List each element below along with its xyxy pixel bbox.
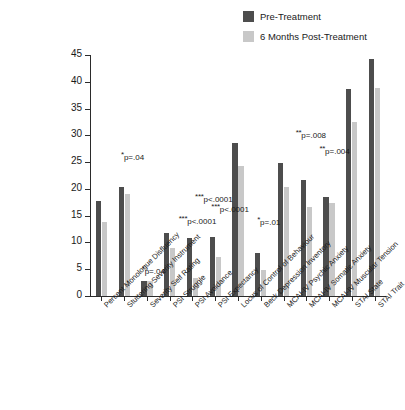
bar (119, 187, 124, 296)
bar (352, 122, 357, 296)
p-value-annotation-7: **p=.004 (319, 144, 349, 156)
legend-item-pre-treatment: Pre-Treatment (243, 10, 403, 23)
p-value-annotation-5: *p=.01 (257, 215, 280, 227)
y-tick-0: 0 (85, 296, 90, 297)
bar (102, 222, 107, 296)
legend-swatch-pre-treatment (243, 11, 254, 22)
y-axis-line (90, 55, 91, 296)
legend-item-post-treatment: 6 Months Post-Treatment (243, 30, 403, 43)
y-tick-5: 5 (85, 269, 90, 270)
legend-label-pre-treatment: Pre-Treatment (260, 11, 321, 22)
y-tick-45: 45 (85, 55, 90, 56)
y-tick-10: 10 (85, 242, 90, 243)
y-tick-25: 25 (85, 162, 90, 163)
legend-swatch-post-treatment (243, 31, 254, 42)
chart-legend: Pre-Treatment 6 Months Post-Treatment (243, 10, 403, 50)
y-tick-40: 40 (85, 82, 90, 83)
y-tick-20: 20 (85, 189, 90, 190)
y-tick-label-25: 25 (71, 155, 82, 167)
p-value-annotation-2: ***p<.0001 (179, 214, 217, 226)
x-tick-8 (284, 296, 285, 301)
y-tick-label-20: 20 (71, 182, 82, 194)
bar (278, 163, 283, 296)
y-tick-label-35: 35 (71, 102, 82, 114)
y-tick-label-15: 15 (71, 209, 82, 221)
x-tick-7 (261, 296, 262, 301)
x-tick-3 (170, 296, 171, 301)
legend-label-post-treatment: 6 Months Post-Treatment (260, 31, 367, 42)
x-tick-0 (101, 296, 102, 301)
bar (96, 201, 101, 296)
p-value-annotation-0: *p=.04 (121, 150, 144, 162)
y-tick-label-5: 5 (76, 262, 82, 274)
y-tick-15: 15 (85, 216, 90, 217)
y-tick-30: 30 (85, 135, 90, 136)
y-tick-label-10: 10 (71, 235, 82, 247)
x-tick-2 (147, 296, 148, 301)
x-tick-11 (352, 296, 353, 301)
y-tick-label-30: 30 (71, 128, 82, 140)
x-tick-6 (238, 296, 239, 301)
x-tick-10 (329, 296, 330, 301)
p-value-annotation-4: ***p<.0001 (211, 202, 249, 214)
y-tick-35: 35 (85, 109, 90, 110)
y-tick-label-45: 45 (71, 48, 82, 60)
x-tick-12 (375, 296, 376, 301)
y-tick-label-40: 40 (71, 75, 82, 87)
plot-area: 051015202530354045 *p=.04*p=.04***p<.000… (90, 55, 386, 296)
x-tick-1 (124, 296, 125, 301)
x-tick-9 (306, 296, 307, 301)
x-tick-4 (192, 296, 193, 301)
x-tick-5 (215, 296, 216, 301)
p-value-annotation-6: **p=.008 (296, 128, 326, 140)
y-tick-label-0: 0 (76, 289, 82, 301)
